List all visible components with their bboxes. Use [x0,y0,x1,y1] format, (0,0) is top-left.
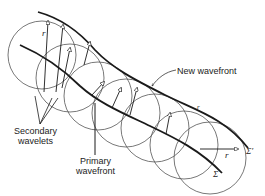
new-wavefront-leader [152,70,176,86]
secondary-wavelets-label-line2: wavelets [14,136,57,146]
radius-label-top: r [42,28,46,38]
secondary-wavelets-label: Secondary wavelets [14,126,57,146]
primary-wavefront-label: Primary wavefront [76,156,115,176]
new-wavefront-label: New wavefront [177,66,237,76]
radius-label-right: r [225,150,229,160]
wavelet-circle [174,122,246,194]
primary-wavefront-label-line2: wavefront [76,166,115,176]
wavelet-circle [92,79,160,147]
secondary-wavelet-circles [8,21,246,194]
secondary-wavelets-label-line1: Secondary [14,126,57,136]
new-wavefront-curve [38,12,248,148]
huygens-diagram [0,0,265,196]
primary-wavefront-label-line1: Primary [76,156,115,166]
radius-label-mid: r [197,103,200,111]
sigma-prime-label: Σ′ [246,146,253,156]
secondary-wavelets-leaders [35,96,58,124]
radius-arrows [44,21,238,149]
sigma-label: Σ [213,169,218,179]
